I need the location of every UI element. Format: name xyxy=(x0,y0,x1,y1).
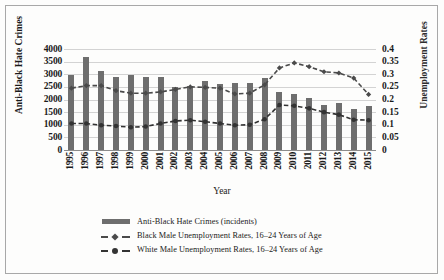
data-point-marker-diamond xyxy=(158,89,163,94)
data-point-marker-circle xyxy=(366,118,371,123)
y-tick-label-left: 500 xyxy=(48,133,62,142)
data-point-marker-diamond xyxy=(84,83,89,88)
data-point-marker-diamond xyxy=(292,60,297,65)
data-point-marker-diamond xyxy=(113,88,118,93)
bar-swatch-icon xyxy=(100,215,132,227)
data-point-marker-diamond xyxy=(173,87,178,92)
data-point-marker-circle xyxy=(233,123,238,128)
x-tick-label: 2013 xyxy=(333,152,345,170)
y-tick-label-right: 0.4 xyxy=(382,45,394,54)
x-tick-label: 2002 xyxy=(169,152,181,170)
data-point-marker-circle xyxy=(262,117,267,122)
data-point-marker-circle xyxy=(351,117,356,122)
data-point-marker-circle xyxy=(277,103,282,108)
data-point-marker-diamond xyxy=(321,69,326,74)
data-point-marker-circle xyxy=(188,118,193,123)
data-point-marker-circle xyxy=(292,104,297,109)
data-point-marker-diamond xyxy=(143,91,148,96)
x-tick-label: 2009 xyxy=(273,152,285,170)
y-tick-label-right: 0.15 xyxy=(382,108,399,117)
legend-item[interactable]: White Male Unemployment Rates, 16–24 Yea… xyxy=(100,242,370,256)
x-tick-label: 2007 xyxy=(244,152,256,170)
y-axis-left-title: Anti-Black Hate Crimes xyxy=(14,15,24,115)
data-point-marker-diamond xyxy=(366,92,371,97)
x-tick-label: 1997 xyxy=(95,152,107,170)
x-tick-label: 1995 xyxy=(65,152,77,170)
legend-item-label: Black Male Unemployment Rates, 16–24 Yea… xyxy=(137,231,322,240)
legend-bar-swatch xyxy=(102,219,130,224)
data-point-marker-circle xyxy=(69,121,74,126)
x-tick-label: 2001 xyxy=(155,152,167,170)
data-point-marker-diamond xyxy=(188,84,193,89)
dashed-diamond-line-icon xyxy=(100,229,132,241)
x-tick-label: 2004 xyxy=(199,152,211,170)
data-point-marker-diamond xyxy=(336,70,341,75)
legend-line-marker xyxy=(100,245,132,257)
y-tick-label-left: 3500 xyxy=(44,57,62,66)
data-point-marker-diamond xyxy=(232,91,237,96)
data-point-marker-circle xyxy=(322,110,327,115)
data-point-marker-circle xyxy=(218,121,223,126)
data-point-marker-circle xyxy=(158,121,163,126)
data-point-marker-circle xyxy=(247,122,252,127)
x-tick-label: 1999 xyxy=(125,152,137,170)
data-point-marker-diamond xyxy=(99,83,104,88)
y-tick-label-right: 0.25 xyxy=(382,82,399,91)
y-axis-right-title: Unemployment Rates xyxy=(419,15,429,115)
x-tick-label: 2014 xyxy=(348,152,360,170)
x-tick-label: 2008 xyxy=(259,152,271,170)
y-tick-label-left: 1500 xyxy=(44,108,62,117)
chart-legend: Anti-Black Hate Crimes (incidents)Black … xyxy=(100,214,370,256)
data-point-marker-diamond xyxy=(128,91,133,96)
y-tick-label-right: 0.35 xyxy=(382,57,399,66)
plot-area xyxy=(64,49,376,150)
line-series-group xyxy=(64,49,376,150)
legend-item[interactable]: Anti-Black Hate Crimes (incidents) xyxy=(100,214,370,228)
chart-figure: Anti-Black Hate Crimes 40003500300025002… xyxy=(0,0,444,280)
data-point-marker-circle xyxy=(307,106,312,111)
data-point-marker-diamond xyxy=(247,91,252,96)
y-tick-label-right: 0 xyxy=(382,146,387,155)
x-axis-title: Year xyxy=(0,186,444,196)
x-tick-label: 2000 xyxy=(140,152,152,170)
y-tick-label-right: 0.1 xyxy=(382,120,394,129)
data-point-marker-circle xyxy=(129,125,134,130)
x-tick-label: 2012 xyxy=(318,152,330,170)
legend-item[interactable]: Black Male Unemployment Rates, 16–24 Yea… xyxy=(100,228,370,242)
y-tick-label-left: 0 xyxy=(57,146,62,155)
x-tick-label: 1998 xyxy=(110,152,122,170)
y-tick-label-left: 2000 xyxy=(44,95,62,104)
data-point-marker-diamond xyxy=(69,86,74,91)
y-tick-label-right: 0.05 xyxy=(382,133,399,142)
dashed-circle-line-icon xyxy=(100,243,132,255)
y-tick-label-left: 2500 xyxy=(44,82,62,91)
y-axis-right-ticks: 0.40.350.30.250.20.150.10.050 xyxy=(382,42,416,158)
data-point-marker-diamond xyxy=(277,65,282,70)
data-point-marker-diamond xyxy=(217,86,222,91)
data-point-marker-diamond xyxy=(203,85,208,90)
x-tick-label: 2010 xyxy=(288,152,300,170)
y-tick-label-right: 0.2 xyxy=(382,95,394,104)
x-tick-label: 2006 xyxy=(229,152,241,170)
y-axis-left-ticks: 40003500300025002000150010005000 xyxy=(30,42,62,158)
y-tick-label-left: 4000 xyxy=(44,45,62,54)
legend-item-label: White Male Unemployment Rates, 16–24 Yea… xyxy=(137,245,323,254)
data-point-marker-circle xyxy=(114,124,119,129)
x-tick-label: 2011 xyxy=(303,152,315,169)
data-point-marker-diamond xyxy=(307,64,312,69)
x-tick-label: 1996 xyxy=(80,152,92,170)
x-axis-ticks: 1995199619971998199920002001200220032004… xyxy=(64,152,376,184)
data-point-marker-circle xyxy=(173,119,178,124)
data-point-marker-circle xyxy=(337,112,342,117)
data-point-marker-circle xyxy=(143,124,148,129)
y-tick-label-left: 1000 xyxy=(44,120,62,129)
data-point-marker-circle xyxy=(203,119,208,124)
data-point-marker-circle xyxy=(84,121,89,126)
x-tick-label: 2003 xyxy=(184,152,196,170)
y-tick-label-right: 0.3 xyxy=(382,70,394,79)
x-tick-label: 2005 xyxy=(214,152,226,170)
x-tick-label: 2015 xyxy=(363,152,375,170)
data-point-marker-circle xyxy=(99,123,104,128)
y-tick-label-left: 3000 xyxy=(44,70,62,79)
legend-item-label: Anti-Black Hate Crimes (incidents) xyxy=(137,217,257,226)
